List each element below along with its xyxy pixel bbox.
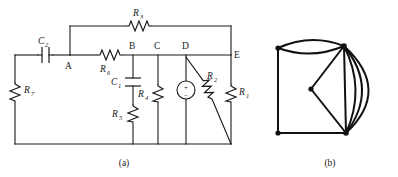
- figure-svg: + − A B C D E R 3 C 2 R 6 C: [0, 0, 398, 177]
- label-r5-sym: R: [111, 109, 118, 119]
- r5-zigzag: [128, 104, 138, 122]
- graph-edge-v2-v5-curve-2: [344, 46, 362, 133]
- label-c2: C 2: [38, 36, 49, 48]
- label-r1: R 1: [238, 87, 249, 99]
- graph-vertex-v4: [275, 130, 280, 135]
- voltage-source-plus: +: [184, 84, 188, 92]
- wire-r2-diag-lower: [212, 99, 231, 144]
- label-r5: R 5: [111, 109, 123, 121]
- graph-vertex-v3: [308, 86, 313, 91]
- capacitor-c1: [125, 78, 141, 86]
- node-label-e: E: [234, 50, 240, 60]
- voltage-source-minus: −: [184, 92, 188, 100]
- label-r4: R 4: [137, 89, 149, 101]
- voltage-source: + −: [177, 81, 195, 100]
- label-r3: R 3: [132, 8, 144, 20]
- graph-edge-v1-v2-upper: [278, 40, 344, 48]
- label-r7-sym: R: [23, 85, 30, 95]
- label-r2-sub: 2: [214, 76, 218, 83]
- node-label-a: A: [65, 61, 72, 71]
- r2-zigzag: [202, 79, 213, 99]
- label-r4-sub: 4: [145, 94, 149, 101]
- graph-edge-v2-v5-straight: [344, 46, 346, 133]
- graph-vertex-v2: [341, 43, 347, 49]
- capacitor-c2: [38, 47, 53, 63]
- label-r5-sub: 5: [119, 114, 123, 121]
- circuit-panel: + − A B C D E R 3 C 2 R 6 C: [10, 8, 249, 169]
- graph-edge-v1-v2-lower: [278, 46, 344, 54]
- label-r2-sym: R: [206, 71, 213, 81]
- graph-vertex-v1: [275, 45, 280, 50]
- wire-r2-diag-upper: [186, 57, 202, 79]
- resistor-r3: [126, 21, 152, 31]
- r3-zigzag: [126, 21, 152, 31]
- label-c2-sym: C: [38, 36, 45, 46]
- label-r3-sub: 3: [139, 13, 144, 20]
- resistor-r1: [226, 84, 236, 102]
- graph-panel: (b): [275, 40, 368, 169]
- graph-edge-v3-v5: [311, 89, 346, 133]
- label-r1-sym: R: [238, 87, 245, 97]
- resistor-r6: [97, 50, 123, 60]
- label-r4-sym: R: [137, 89, 144, 99]
- label-r6: R 6: [99, 64, 111, 76]
- r6-zigzag: [97, 50, 123, 60]
- resistor-r4: [153, 84, 163, 102]
- label-c1-sym: C: [111, 77, 118, 87]
- label-c2-sub: 2: [45, 41, 49, 48]
- label-r6-sub: 6: [107, 69, 111, 76]
- resistor-r5: [128, 104, 138, 122]
- resistor-r7: [10, 82, 20, 101]
- label-r7-sub: 7: [31, 90, 35, 97]
- label-r3-sym: R: [132, 8, 139, 18]
- r7-zigzag: [10, 82, 20, 101]
- label-r6-sym: R: [99, 64, 106, 74]
- label-c1-sub: 1: [118, 82, 121, 89]
- node-label-b: B: [129, 41, 135, 51]
- node-label-d: D: [182, 41, 189, 51]
- caption-panel-a: (a): [119, 158, 130, 169]
- caption-panel-b: (b): [324, 158, 335, 169]
- label-r1-sub: 1: [246, 92, 249, 99]
- r1-zigzag: [226, 84, 236, 102]
- graph-vertex-v5: [343, 130, 349, 136]
- figure-root: + − A B C D E R 3 C 2 R 6 C: [0, 0, 398, 177]
- node-label-c: C: [154, 41, 160, 51]
- label-c1: C 1: [111, 77, 121, 89]
- r4-zigzag: [153, 84, 163, 102]
- resistor-r2: [202, 79, 213, 99]
- label-r7: R 7: [23, 85, 35, 97]
